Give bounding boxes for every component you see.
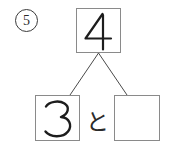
handwritten-digit-4-icon [76, 8, 121, 53]
worksheet-page: 5 と [0, 0, 171, 158]
connector-line-right [99, 53, 128, 95]
connector-line-left [70, 53, 99, 95]
conjunction-label: と [85, 106, 109, 138]
handwritten-digit-3-icon [35, 95, 80, 141]
part-box-right[interactable] [114, 95, 160, 141]
